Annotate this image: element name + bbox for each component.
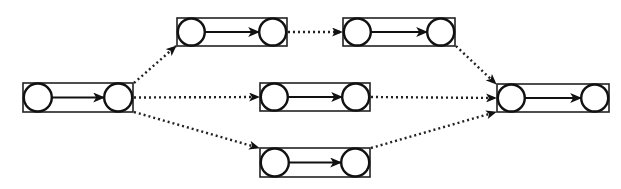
activity-box-C	[343, 18, 455, 46]
activity-box-E	[260, 148, 370, 177]
activity-box-B	[177, 18, 287, 46]
end-node-circle-icon	[104, 84, 132, 112]
activity-boxes	[23, 18, 609, 177]
activity-box-D	[260, 83, 370, 111]
end-node-circle-icon	[427, 19, 454, 46]
end-node-circle-icon	[581, 85, 608, 112]
dotted-link-E-to-F	[371, 112, 496, 148]
start-node-circle-icon	[261, 149, 289, 177]
end-node-circle-icon	[259, 19, 286, 46]
start-node-circle-icon	[344, 19, 371, 46]
end-node-circle-icon	[341, 149, 369, 177]
start-node-circle-icon	[24, 84, 52, 112]
activity-box-F	[497, 84, 609, 112]
dotted-link-C-to-F	[456, 46, 496, 84]
end-node-circle-icon	[342, 84, 369, 111]
activity-network-diagram	[0, 0, 621, 189]
dotted-link-A-to-B	[134, 46, 176, 83]
start-node-circle-icon	[261, 84, 288, 111]
activity-box-A	[23, 83, 133, 112]
start-node-circle-icon	[498, 85, 525, 112]
dotted-link-D-to-F	[371, 97, 496, 98]
start-node-circle-icon	[178, 19, 205, 46]
dotted-link-A-to-E	[134, 112, 259, 148]
dotted-link-A-to-D	[134, 97, 259, 98]
